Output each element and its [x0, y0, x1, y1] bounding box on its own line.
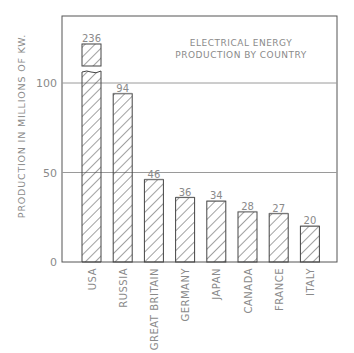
value-label: 236 — [82, 33, 101, 44]
chart-title-line-1: ELECTRICAL ENERGY — [190, 38, 292, 48]
value-label: 28 — [241, 201, 254, 212]
y-axis-ticks: 050100 — [36, 77, 57, 269]
value-label: 36 — [179, 187, 192, 198]
value-label: 20 — [304, 215, 317, 226]
x-tick-label: USA — [87, 268, 98, 290]
y-tick-label: 0 — [50, 256, 57, 269]
x-tick-label: CANADA — [243, 268, 254, 314]
bar-japan: 34 — [207, 190, 226, 262]
bar-russia: 94 — [113, 83, 132, 262]
bar-italy: 20 — [300, 215, 319, 262]
y-tick-label: 100 — [36, 77, 57, 90]
bars: 23694463634282720 — [82, 33, 319, 262]
x-axis-labels: USARUSSIAGREAT BRITAINGERMANYJAPANCANADA… — [87, 268, 316, 351]
x-tick-label: GREAT BRITAIN — [149, 268, 160, 350]
bar-france: 27 — [269, 203, 288, 262]
value-label: 94 — [116, 83, 129, 94]
x-tick-label: RUSSIA — [118, 268, 129, 308]
value-label: 46 — [148, 169, 161, 180]
gridlines — [62, 83, 337, 173]
x-tick-label: FRANCE — [274, 268, 285, 311]
bar-usa: 236 — [82, 33, 101, 262]
bar-canada: 28 — [238, 201, 257, 262]
x-tick-label: GERMANY — [180, 268, 191, 322]
x-tick-label: JAPAN — [211, 268, 222, 301]
value-label: 34 — [210, 190, 223, 201]
x-tick-label: ITALY — [305, 268, 316, 296]
chart-title-line-2: PRODUCTION BY COUNTRY — [175, 50, 306, 60]
bar-chart: 050100 23694463634282720 USARUSSIAGREAT … — [0, 0, 354, 353]
value-label: 27 — [272, 203, 285, 214]
y-tick-label: 50 — [43, 167, 57, 180]
bar-great-britain: 46 — [144, 169, 163, 262]
bar-germany: 36 — [176, 187, 195, 262]
y-axis-label: PRODUCTION IN MILLIONS OF KW. — [16, 34, 27, 218]
